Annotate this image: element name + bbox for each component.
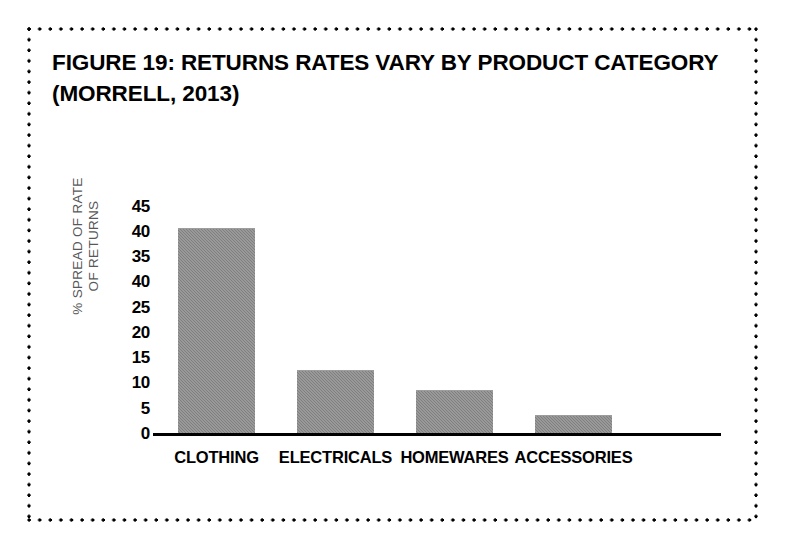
x-axis-category-label: CLOTHING: [174, 448, 259, 467]
bar-chart: % SPREAD OF RATE OF RETURNS 454035402520…: [0, 0, 785, 550]
x-axis-category-label: ACCESSORIES: [515, 448, 633, 467]
x-axis-category-label: ELECTRICALS: [279, 448, 392, 467]
bar: [178, 228, 255, 434]
x-axis-category-labels: CLOTHINGELECTRICALSHOMEWARESACCESSORIES: [150, 448, 730, 474]
x-axis-category-label: HOMEWARES: [400, 448, 508, 467]
bar: [535, 415, 612, 434]
x-axis-line: [153, 433, 721, 436]
bar: [297, 370, 374, 434]
bar: [416, 390, 493, 434]
figure-container: FIGURE 19: RETURNS RATES VARY BY PRODUCT…: [0, 0, 785, 550]
